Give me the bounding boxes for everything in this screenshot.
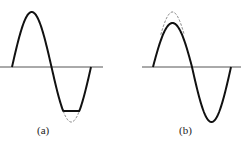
panel-b-compressed-waveform [153,23,231,122]
panel-a: (a) [0,12,103,137]
panel-a-label: (a) [37,124,50,137]
panel-b: (b) [142,12,241,137]
panel-b-label: (b) [179,124,192,137]
panel-a-clipped-waveform [12,12,91,111]
waveform-figure: (a) (b) [0,0,241,146]
panel-a-ideal-trough-dashed [63,111,79,122]
